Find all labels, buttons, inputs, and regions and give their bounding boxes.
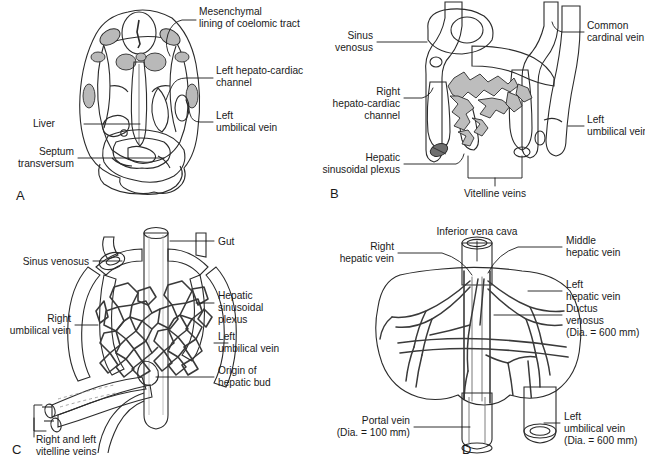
gut-tube [144, 233, 168, 429]
label-middle-hepatic-vein-line2: hepatic vein [566, 247, 620, 258]
neural-tube [122, 12, 156, 54]
figure-root: Mesenchymal lining of coelomic tract Lef… [0, 0, 645, 470]
panel-c: Gut Sinus venosus Right umbilical vein H… [0, 215, 322, 455]
label-hepatic-plexus-c-line2: sinusoidal [218, 302, 263, 313]
left-umbilical-vein-tube [524, 387, 556, 443]
origin-of-hepatic-bud-structure [138, 361, 159, 385]
label-common-cardinal-line2: cardinal vein [587, 32, 644, 43]
label-left-umbilical-line2: umbilical vein [216, 122, 277, 133]
label-right-umbilical-line2: umbilical vein [10, 325, 71, 336]
label-left-umbilical-c-line2: umbilical vein [218, 343, 279, 354]
label-vitelline-c-line1: Right and left [36, 434, 96, 445]
panel-d: Inferior vena cava Right hepatic vein Mi… [322, 215, 645, 455]
label-sinus-venosus-c: Sinus venosus [23, 256, 89, 267]
label-ductus-venosus-line1: Ductus [566, 303, 598, 314]
label-sinus-venosus-line1: Sinus [348, 30, 373, 41]
panel-letter-b: B [330, 186, 339, 201]
label-right-hepato-cardiac-line3: channel [364, 110, 400, 121]
label-middle-hepatic-vein-line1: Middle [566, 235, 596, 246]
leader-lines-c [34, 241, 228, 437]
label-hepatic-plexus-line1: Hepatic [365, 152, 400, 163]
label-left-umbilical-c-line1: Left [218, 331, 235, 342]
leader-common-cardinal [552, 22, 584, 32]
gut-and-aorta [131, 62, 146, 146]
label-left-umbilical-d-line1: Left [564, 411, 581, 422]
label-ductus-venosus-line2: venosus [566, 315, 604, 326]
label-left-umbilical-d-line2: umbilical vein [564, 423, 625, 434]
leader-right-hepatic-vein [398, 253, 472, 275]
label-hepatic-plexus-line2: sinusoidal plexus [322, 164, 400, 175]
label-right-umbilical-line1: Right [47, 313, 71, 324]
label-septum-line2: transversum [18, 158, 74, 169]
label-ivc: Inferior vena cava [437, 226, 518, 237]
label-right-hepatic-vein-line1: Right [370, 241, 394, 252]
label-origin-hepatic-bud-line1: Origin of [218, 365, 257, 376]
label-left-hepatic-vein-line2: hepatic vein [566, 291, 620, 302]
label-left-hepato-cardiac-line2: channel [216, 77, 252, 88]
label-ductus-venosus-line3: (Dia. = 600 mm) [566, 327, 639, 338]
labels-d: Inferior vena cava Right hepatic vein Mi… [337, 226, 640, 446]
left-umbilical-vein-structure [175, 95, 189, 121]
label-right-hepatic-vein-line2: hepatic vein [340, 253, 394, 264]
label-portal-vein-line2: (Dia. = 100 mm) [337, 427, 410, 438]
panel-b: Sinus venosus Common cardinal vein Right… [322, 0, 645, 215]
left-hepato-cardiac-channel-structure [152, 88, 169, 132]
labels-a: Mesenchymal lining of coelomic tract Lef… [18, 6, 303, 169]
label-mesenchymal-line2: lining of coelomic tract [199, 18, 300, 29]
label-vitelline-veins: Vitelline veins [464, 188, 526, 199]
label-left-umbilical-d-line3: (Dia. = 600 mm) [564, 435, 637, 446]
label-liver: Liver [33, 118, 56, 129]
venous-system-stage-b [426, 2, 580, 162]
label-portal-vein-line1: Portal vein [362, 415, 410, 426]
label-right-hepato-cardiac-line1: Right [376, 86, 400, 97]
label-left-hepatic-vein-line1: Left [566, 279, 583, 290]
liver-primordium [103, 130, 185, 183]
label-right-hepato-cardiac-line2: hepato-cardiac [333, 98, 400, 109]
sinus-venosus-lumen [451, 17, 483, 43]
panel-a: Mesenchymal lining of coelomic tract Lef… [0, 0, 322, 215]
bracket-vitelline [468, 156, 522, 178]
leader-lines-d [398, 241, 562, 427]
label-left-umbilical-line1: Left [216, 110, 233, 121]
label-left-umbilical-line2: umbilical vein [587, 126, 645, 137]
liver-body [376, 267, 581, 405]
bracket-vitelline-c [34, 405, 46, 431]
label-gut: Gut [218, 236, 235, 247]
label-common-cardinal-line1: Common [587, 20, 628, 31]
label-origin-hepatic-bud-line2: hepatic bud [218, 377, 271, 388]
label-mesenchymal-line1: Mesenchymal [199, 6, 262, 17]
embryo-cross-section [80, 10, 200, 194]
label-sinus-venosus-line2: venosus [335, 42, 373, 53]
leader-middle-hepatic-vein [488, 247, 562, 273]
label-left-hepato-cardiac-line1: Left hepato-cardiac [216, 65, 303, 76]
label-hepatic-plexus-c-line1: Hepatic [218, 290, 253, 301]
label-left-umbilical-line1: Left [587, 114, 604, 125]
panel-letter-a: A [16, 188, 25, 203]
label-hepatic-plexus-c-line3: plexus [218, 314, 247, 325]
label-septum-line1: Septum [39, 146, 74, 157]
figure-caption-cutoff [0, 455, 645, 470]
